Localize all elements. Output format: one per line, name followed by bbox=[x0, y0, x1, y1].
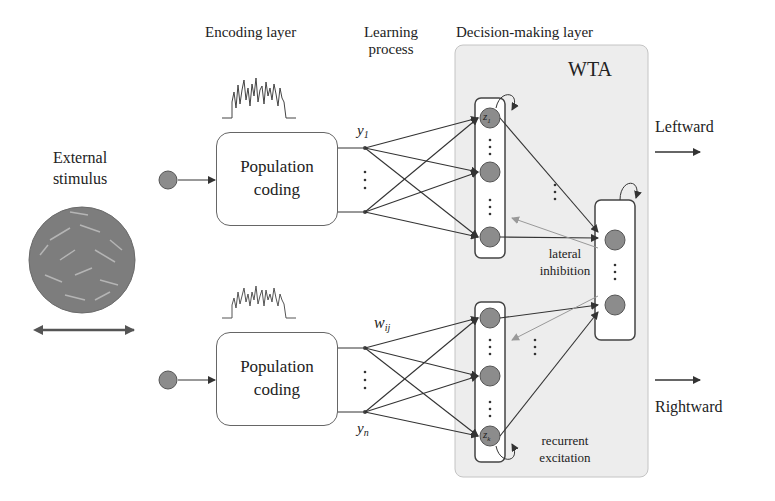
wij-label: wij bbox=[374, 314, 390, 333]
stimulus-disc bbox=[29, 207, 135, 313]
external-stimulus-label: External stimulus bbox=[30, 148, 130, 190]
learning-header-line1: Learning bbox=[364, 24, 418, 40]
lateral-line1: lateral bbox=[549, 246, 581, 261]
leftward-label: Leftward bbox=[655, 118, 714, 136]
neuron-top-3 bbox=[480, 227, 500, 247]
population-coding-bottom: Population coding bbox=[216, 332, 338, 426]
pop-top-line2: coding bbox=[254, 180, 300, 199]
encoding-layer-header: Encoding layer bbox=[205, 24, 296, 41]
recurrent-line1: recurrent bbox=[542, 433, 589, 448]
recurrent-line2: excitation bbox=[539, 450, 590, 465]
zk-label: zk bbox=[483, 428, 490, 444]
yn-label: yn bbox=[357, 420, 369, 438]
spike-train-top bbox=[222, 78, 296, 118]
neuron-top-2 bbox=[480, 162, 500, 182]
spike-train-bottom bbox=[222, 286, 296, 318]
recurrent-excitation-label: recurrent excitation bbox=[520, 433, 610, 467]
pop-bottom-line1: Population bbox=[240, 357, 314, 376]
inhibitory-neuron-1 bbox=[605, 230, 625, 250]
learning-process-header: Learning process bbox=[356, 24, 426, 57]
rightward-label: Rightward bbox=[655, 398, 723, 416]
z1-label: z1 bbox=[483, 110, 491, 126]
neuron-bottom-2 bbox=[480, 366, 500, 386]
input-neuron-bottom bbox=[159, 371, 177, 389]
stimulus-line1: External bbox=[53, 149, 107, 166]
input-neuron-top bbox=[159, 171, 177, 189]
inhibitory-neuron-2 bbox=[605, 295, 625, 315]
lateral-inhibition-label: lateral inhibition bbox=[525, 246, 605, 280]
stimulus-line2: stimulus bbox=[53, 170, 107, 187]
decision-layer-header: Decision-making layer bbox=[456, 24, 593, 41]
pop-bottom-line2: coding bbox=[254, 380, 300, 399]
neuron-bottom-1 bbox=[480, 308, 500, 328]
wta-label: WTA bbox=[568, 58, 612, 80]
diagram-canvas bbox=[0, 0, 775, 501]
population-coding-top: Population coding bbox=[216, 132, 338, 226]
y1-label: y1 bbox=[357, 122, 369, 140]
pop-top-line1: Population bbox=[240, 157, 314, 176]
lateral-line2: inhibition bbox=[540, 263, 591, 278]
learning-header-line2: process bbox=[369, 41, 414, 57]
